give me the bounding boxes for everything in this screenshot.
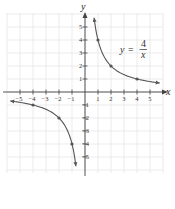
data-point	[109, 64, 112, 67]
y-tick-label: 5	[79, 23, 82, 30]
y-tick-label: −1	[82, 101, 89, 108]
svg-text:=: =	[128, 44, 134, 55]
x-tick-label: 3	[122, 95, 125, 102]
y-tick-label: 1	[79, 75, 82, 82]
y-tick-label: −4	[82, 140, 90, 147]
data-point	[70, 142, 73, 145]
data-point	[31, 103, 34, 106]
y-tick-label: 2	[79, 62, 82, 69]
x-tick-label: −1	[68, 95, 75, 102]
x-axis-label: x	[165, 86, 171, 97]
x-tick-label: 4	[135, 95, 139, 102]
x-tick-label: −5	[16, 95, 23, 102]
x-tick-label: 5	[148, 95, 151, 102]
data-point	[57, 116, 60, 119]
svg-text:x: x	[140, 49, 146, 60]
y-tick-label: −3	[82, 127, 89, 134]
x-tick-label: −2	[55, 95, 62, 102]
x-tick-label: −4	[29, 95, 37, 102]
y-tick-label: −2	[82, 114, 89, 121]
svg-text:y: y	[119, 44, 125, 55]
equation-label: y = 4 x	[119, 38, 147, 60]
y-tick-label: 3	[79, 49, 82, 56]
axes	[3, 12, 168, 176]
svg-text:4: 4	[141, 38, 146, 49]
x-tick-label: 1	[96, 95, 99, 102]
y-axis-label: y	[80, 1, 86, 12]
data-point	[135, 77, 138, 80]
x-tick-label: −3	[42, 95, 49, 102]
y-axis-arrow-icon	[83, 12, 88, 18]
data-point	[96, 38, 99, 41]
hyperbola-chart: −5−4−3−2−112345−5−4−3−2−112345 x y y = 4…	[0, 0, 175, 209]
x-tick-label: 2	[109, 95, 112, 102]
y-tick-label: −5	[82, 153, 89, 160]
